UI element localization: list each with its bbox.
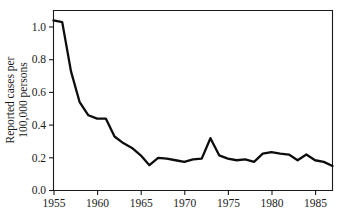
- x-tick-label-1980: 1980: [261, 197, 284, 209]
- y-tick-label-1: 0.2: [32, 152, 47, 164]
- y-tick-label-4: 0.8: [32, 53, 47, 65]
- x-tick-label-1985: 1985: [304, 197, 327, 209]
- y-axis-title-line1: Reported cases per: [4, 56, 17, 143]
- plot-frame: [54, 11, 333, 191]
- y-tick-label-5: 1.0: [32, 21, 47, 33]
- x-axis-tick-labels: 1955 1960 1965 1970 1975 1980 1985: [43, 197, 328, 209]
- chart-figure: 0.0 0.2 0.4 0.6 0.8 1.0 1955 1960 1965 1…: [0, 0, 343, 220]
- x-tick-label-1955: 1955: [43, 197, 66, 209]
- x-tick-label-1965: 1965: [130, 197, 153, 209]
- y-axis-ticks: [49, 27, 54, 191]
- y-axis-tick-labels: 0.0 0.2 0.4 0.6 0.8 1.0: [32, 21, 47, 197]
- line-chart: 0.0 0.2 0.4 0.6 0.8 1.0 1955 1960 1965 1…: [0, 0, 343, 220]
- y-axis-title-line2: 100,000 persons: [17, 62, 30, 138]
- y-axis-title: Reported cases per 100,000 persons: [4, 56, 30, 143]
- x-tick-label-1975: 1975: [217, 197, 240, 209]
- x-axis-ticks: [54, 191, 316, 196]
- y-tick-label-2: 0.4: [32, 119, 47, 131]
- y-tick-label-0: 0.0: [32, 184, 47, 196]
- x-tick-label-1970: 1970: [173, 197, 196, 209]
- x-tick-label-1960: 1960: [86, 197, 109, 209]
- y-tick-label-3: 0.6: [32, 86, 47, 98]
- series-line-reported-cases: [54, 20, 333, 166]
